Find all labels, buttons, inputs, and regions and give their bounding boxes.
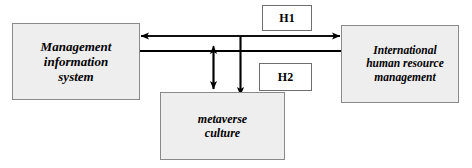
node-mis-line2: information [41,54,112,69]
node-management-information-system[interactable]: Management information system [12,23,140,100]
node-metaverse-culture[interactable]: metaverse culture [160,92,285,160]
node-metaverse-line1: metaverse [198,112,247,126]
hypothesis-h1-text: H1 [279,11,294,26]
node-ihrm-label: International human resource management [366,44,444,85]
node-mis-line3: system [41,69,112,84]
node-mis-line1: Management [41,39,112,54]
node-ihrm-line2: human resource [366,57,444,71]
node-ihrm-line1: International [366,44,444,58]
node-metaverse-label: metaverse culture [198,112,247,140]
hypothesis-label-h2[interactable]: H2 [259,63,312,91]
hypothesis-h2-text: H2 [278,70,293,85]
node-ihrm-line3: management [366,71,444,85]
node-international-human-resource-management[interactable]: International human resource management [341,25,459,103]
hypothesis-label-h1[interactable]: H1 [262,5,312,31]
diagram-canvas: Management information system Internatio… [0,0,472,168]
node-metaverse-line2: culture [198,126,247,140]
node-mis-label: Management information system [41,39,112,85]
